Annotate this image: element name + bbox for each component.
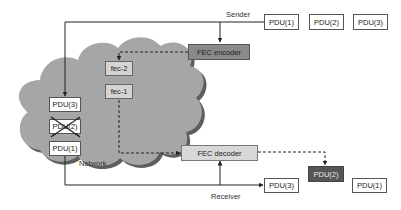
sender-pdu-3: PDU(3) [353, 14, 388, 30]
fec-encoder: FEC encoder [188, 44, 250, 60]
network-cloud [19, 37, 207, 169]
fec-packet-2: fec-2 [105, 61, 133, 76]
network-pdu-3: PDU(3) [49, 97, 81, 112]
received-pdu-1: PDU(1) [352, 178, 387, 193]
sender-pdu-2: PDU(2) [309, 14, 344, 30]
fec-packet-1: fec-1 [105, 84, 133, 99]
receiver-label: Receiver [211, 192, 241, 201]
received-pdu-3: PDU(3) [264, 178, 299, 193]
network-pdu-2-lost: PDU(2) [49, 119, 81, 134]
sender-pdu-1: PDU(1) [264, 14, 299, 30]
decoder-to-recovered-line [258, 152, 325, 165]
fec-decoder: FEC decoder [181, 145, 258, 161]
sender-label: Sender [226, 10, 250, 19]
recovered-pdu-2: PDU(2) [308, 166, 344, 182]
network-label: Network [79, 159, 107, 168]
network-pdu-1: PDU(1) [49, 141, 81, 156]
